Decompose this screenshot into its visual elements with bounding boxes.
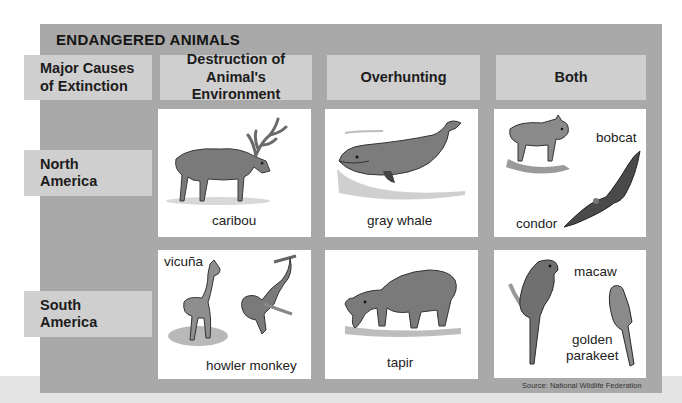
golden-parakeet-line: golden [566,332,619,348]
corner-header-line: Major Causes [40,60,152,77]
animal-label-gray-whale: gray whale [367,213,432,228]
card-vicuna-monkey: vicuña howler monkey [158,250,311,379]
animal-label-bobcat: bobcat [596,130,637,145]
card-bobcat-condor: bobcat condor [494,109,646,237]
corner-header: Major Causes of Extinction [24,55,152,100]
macaw-icon [504,254,564,374]
card-caribou: caribou [158,109,311,237]
column-header-both: Both [496,55,646,100]
animal-label-macaw: macaw [574,264,617,279]
column-header-line: Animal's Environment [160,69,312,104]
row-label-north-america: North America [24,150,152,196]
row-label-line: America [40,173,152,190]
page-title: ENDANGERED ANIMALS [56,31,240,48]
row-label-line: America [40,314,152,331]
animal-label-condor: condor [516,216,557,231]
column-header-line: Overhunting [360,69,446,86]
condor-icon [556,145,646,235]
row-label-line: North [40,156,152,173]
animal-label-caribou: caribou [212,213,256,228]
card-gray-whale: gray whale [325,109,478,237]
tapir-icon [325,250,478,350]
column-header-line: Both [554,69,587,86]
animal-label-howler-monkey: howler monkey [206,358,297,373]
corner-header-line: of Extinction [40,78,152,95]
vicuna-icon [164,258,234,358]
caribou-icon [158,109,311,209]
column-header-overhunting: Overhunting [327,55,480,100]
column-header-destruction: Destruction of Animal's Environment [160,55,312,100]
animal-label-tapir: tapir [387,355,413,370]
card-tapir: tapir [325,250,478,379]
monkey-icon [234,254,304,349]
source-note: Source: National Wildlife Federation [522,381,642,390]
row-label-south-america: South America [24,291,152,337]
row-label-line: South [40,297,152,314]
card-macaw-parakeet: macaw golden parakeet [494,250,646,378]
golden-parakeet-line: parakeet [566,348,619,364]
column-header-line: Destruction of [187,51,285,68]
whale-icon [325,109,478,209]
animal-label-golden-parakeet: golden parakeet [566,332,619,363]
